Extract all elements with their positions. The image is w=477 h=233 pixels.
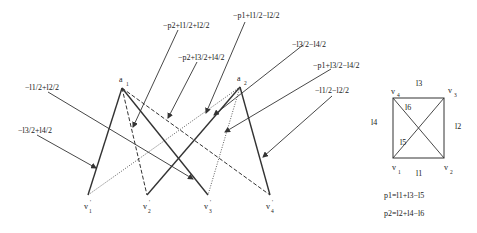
arrow-annot-1 <box>206 22 245 113</box>
node-v4-sub: 4 <box>271 208 274 214</box>
corner-v4-label: v <box>391 87 395 96</box>
annotation-label: −p1+l1/2−l2/2 <box>233 11 279 20</box>
node-v2-sub: 2 <box>148 208 151 214</box>
edge-a2-v4 <box>240 87 270 195</box>
annotation-label: −l3/2−l4/2 <box>292 40 326 49</box>
edge-label-top: l3 <box>416 79 422 88</box>
edge-a2-v3 <box>208 87 240 195</box>
node-v3-sub: 3 <box>209 208 212 214</box>
corner-v1-label: v <box>392 163 396 172</box>
arrow-annot-4 <box>225 69 331 132</box>
edges-a2 <box>88 87 270 195</box>
arrow-annot-7 <box>37 135 96 168</box>
equation-p1: p1=l1+l3−l5 <box>384 191 424 200</box>
corner-v2-sub: 2 <box>450 169 453 175</box>
annotation-label: −l1/2−l2/2 <box>315 86 349 95</box>
annotation-label: −p2+l3/2+l4/2 <box>178 53 224 62</box>
square-diagram: v 4 v 3 v 1 v 2 l3 l2 l1 l4 l6 l5 <box>371 79 461 178</box>
node-a2-label: a <box>237 74 241 83</box>
corner-v3-label: v <box>448 86 452 95</box>
node-v3-label: v <box>204 202 208 211</box>
node-v1: v ' 1 <box>84 199 92 214</box>
edge-a1-v1 <box>88 88 122 195</box>
node-a1-sub: 1 <box>126 81 129 87</box>
node-a2-sub: 2 <box>244 80 247 86</box>
arrow-annot-3 <box>214 45 303 115</box>
corner-v2-label: v <box>444 163 448 172</box>
node-v1-sub: 1 <box>89 208 92 214</box>
equation-p2: p2=l2+l4−l6 <box>384 209 424 218</box>
edges-a1 <box>88 88 270 195</box>
bipartite-diagram: −p2+l1/2+l2/2 −p1+l1/2−l2/2 −p2+l3/2+l4/… <box>0 0 477 233</box>
corner-v3-sub: 3 <box>454 92 457 98</box>
node-v4-prime: ' <box>272 199 273 205</box>
annotation-label: −l3/2+l4/2 <box>18 126 52 135</box>
node-a1-label: a <box>119 75 123 84</box>
edge-label-left: l4 <box>371 118 377 127</box>
node-v4-label: v <box>266 202 270 211</box>
corner-v1-sub: 1 <box>398 169 401 175</box>
edge-label-bottom: l1 <box>416 169 422 178</box>
annotation-label: −p2+l1/2+l2/2 <box>163 21 209 30</box>
arrow-annot-6 <box>263 96 332 157</box>
node-v1-prime: ' <box>90 199 91 205</box>
arrow-annot-2 <box>168 62 197 118</box>
arrow-annot-5 <box>48 92 193 179</box>
node-v3: v ' 3 <box>204 199 212 214</box>
node-v4: v ' 4 <box>266 199 274 214</box>
diagonal-label-l6: l6 <box>405 103 411 112</box>
edge-a2-v2 <box>147 87 240 195</box>
edge-a2-v1 <box>88 87 240 195</box>
edge-a1-v4 <box>122 88 270 195</box>
node-v3-prime: ' <box>210 199 211 205</box>
corner-v4-sub: 4 <box>397 92 400 98</box>
annotation-arrows <box>37 22 332 179</box>
node-v2-label: v <box>143 202 147 211</box>
annotation-label: −p1+l3/2−l4/2 <box>313 61 359 70</box>
edge-label-right: l2 <box>455 122 461 131</box>
node-v1-label: v <box>84 202 88 211</box>
node-v2: v ' 2 <box>143 199 151 214</box>
diagonal-label-l5: l5 <box>400 138 406 147</box>
annotation-label: −l1/2+l2/2 <box>25 83 59 92</box>
node-v2-prime: ' <box>149 199 150 205</box>
